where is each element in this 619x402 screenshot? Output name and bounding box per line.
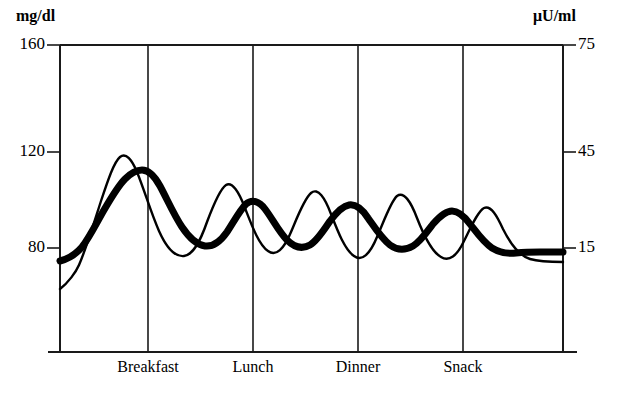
right-tick-label-15: 15	[578, 237, 612, 257]
chart-axes	[48, 45, 577, 353]
category-label-lunch: Lunch	[215, 358, 291, 376]
left-tick-label-80: 80	[11, 237, 45, 257]
series-glucose-line	[60, 170, 563, 261]
category-label-breakfast: Breakfast	[98, 358, 198, 376]
left-tick-label-120: 120	[11, 141, 45, 161]
left-tick-label-160: 160	[11, 34, 45, 54]
right-tick-label-75: 75	[578, 34, 612, 54]
left-axis-unit-label: mg/dl	[16, 7, 55, 25]
series-insulin-line	[60, 155, 563, 289]
glucose-insulin-chart: mg/dl μU/ml 160 120 80 75 45 15 Breakfas…	[0, 0, 619, 402]
left-axis-ticks	[47, 45, 60, 248]
category-label-snack: Snack	[425, 358, 501, 376]
chart-canvas	[0, 0, 619, 402]
right-axis-unit-label: μU/ml	[533, 7, 576, 25]
right-tick-label-45: 45	[578, 141, 612, 161]
right-axis-ticks	[563, 45, 576, 248]
category-label-dinner: Dinner	[318, 358, 398, 376]
